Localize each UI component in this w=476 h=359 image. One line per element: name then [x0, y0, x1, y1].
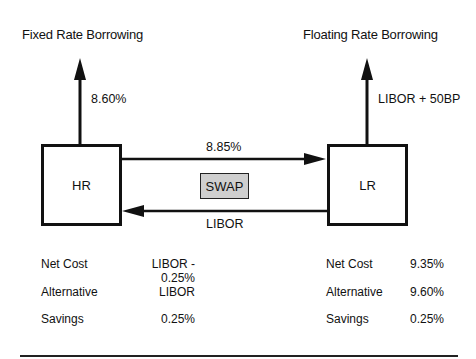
lr-borrowing-arrow — [361, 58, 373, 144]
hr-savings-value: 0.25% — [119, 312, 195, 326]
arrow-left-icon — [122, 205, 144, 217]
lr-borrowing-rate: LIBOR + 50BP — [378, 92, 460, 106]
hr-borrowing-arrow — [74, 58, 86, 144]
arrow-up-icon — [361, 58, 373, 80]
fixed-leg-arrow — [121, 153, 326, 165]
lr-net-cost-label: Net Cost — [326, 257, 373, 271]
hr-alternative-value: LIBOR — [119, 285, 195, 299]
arrow-up-icon — [74, 58, 86, 80]
hr-borrowing-rate: 8.60% — [91, 92, 126, 106]
hr-net-cost-label: Net Cost — [41, 257, 88, 271]
swap-label: SWAP — [206, 179, 244, 194]
hr-savings-label: Savings — [41, 312, 84, 326]
floating-leg-label: LIBOR — [206, 217, 244, 231]
bottom-divider — [20, 355, 458, 357]
hr-entity-box: HR — [41, 144, 122, 226]
hr-net-cost-value: LIBOR - 0.25% — [119, 257, 195, 285]
lr-net-cost-value: 9.35% — [410, 257, 444, 271]
lr-entity-label: LR — [359, 178, 376, 193]
floating-leg-arrow — [122, 205, 328, 217]
lr-entity-box: LR — [327, 144, 408, 226]
hr-entity-label: HR — [72, 178, 91, 193]
lr-savings-value: 0.25% — [410, 312, 444, 326]
lr-alternative-label: Alternative — [326, 285, 383, 299]
swap-box: SWAP — [200, 173, 249, 199]
lr-alternative-value: 9.60% — [410, 285, 444, 299]
hr-alternative-label: Alternative — [41, 285, 98, 299]
lr-savings-label: Savings — [326, 312, 369, 326]
arrow-right-icon — [304, 153, 326, 165]
fixed-leg-label: 8.85% — [206, 140, 241, 154]
